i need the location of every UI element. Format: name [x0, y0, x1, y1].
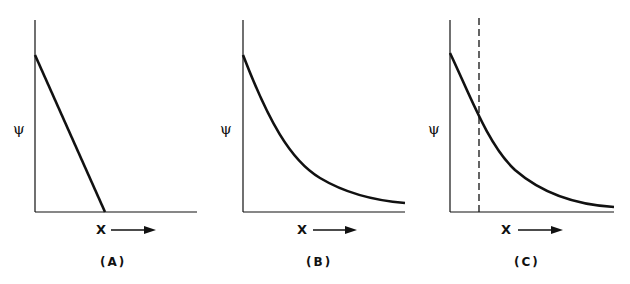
panel-a-caption: (A)	[100, 255, 126, 269]
panel-c-plot	[450, 18, 614, 234]
panel-b-arrow-head	[345, 226, 357, 234]
panel-c-caption: (C)	[514, 255, 540, 269]
panel-c-arrow-head	[551, 226, 563, 234]
panel-b-curve	[243, 55, 405, 203]
panel-c-curve	[450, 53, 614, 207]
figure-canvas	[0, 0, 630, 284]
panel-b-y-label: ψ	[220, 120, 232, 138]
panel-b-x-label: X	[297, 222, 307, 237]
panel-a-arrow-head	[144, 226, 156, 234]
panel-a-x-label: X	[96, 222, 106, 237]
panel-a-curve	[35, 55, 105, 212]
panel-c-x-label: X	[501, 222, 511, 237]
panel-c-y-label: ψ	[428, 120, 440, 138]
panel-b-plot	[243, 20, 405, 234]
panel-b-caption: (B)	[306, 255, 332, 269]
panel-a-plot	[35, 20, 197, 234]
panel-a-y-label: ψ	[13, 120, 25, 138]
